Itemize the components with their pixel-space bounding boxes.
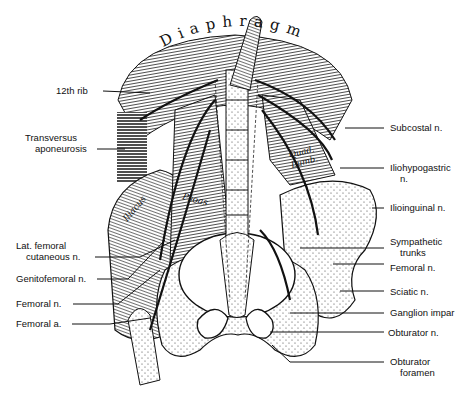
label-text: Femoral n. <box>390 262 435 273</box>
label-femoral-n-left: Femoral n. <box>16 298 61 309</box>
label-text: Ganglion impar <box>390 307 454 318</box>
label-text: Femoral a. <box>16 318 61 329</box>
label-text: Lat. femoral <box>16 240 80 251</box>
label-text: aponeurosis <box>25 143 87 154</box>
label-sympathetic-trunks: Sympathetic trunks <box>390 236 442 258</box>
label-femoral-n-right: Femoral n. <box>390 262 435 273</box>
label-lat-femoral-cutaneous: Lat. femoral cutaneous n. <box>16 240 80 262</box>
label-obturator-n: Obturator n. <box>388 327 439 338</box>
label-text: cutaneous n. <box>16 251 80 262</box>
label-genitofemoral: Genitofemoral n. <box>16 273 86 284</box>
label-ilioinguinal: Ilioinguinal n. <box>390 202 445 213</box>
label-iliohypogastric: Iliohypogastric n. <box>390 162 451 184</box>
label-text: Obturator n. <box>388 327 439 338</box>
label-text: Sciatic n. <box>390 286 429 297</box>
label-text: Sympathetic <box>390 236 442 247</box>
label-subcostal: Subcostal n. <box>390 122 442 133</box>
label-text: Genitofemoral n. <box>16 273 86 284</box>
label-ganglion-impar: Ganglion impar <box>390 307 454 318</box>
label-text: Transversus <box>25 132 87 143</box>
label-obturator-foramen: Obturator foramen <box>390 356 435 378</box>
label-transversus-aponeurosis: Transversus aponeurosis <box>25 132 87 154</box>
label-text: n. <box>390 173 451 184</box>
label-text: Subcostal n. <box>390 122 442 133</box>
label-text: foramen <box>390 367 435 378</box>
label-text: 12th rib <box>56 85 88 96</box>
label-text: Iliohypogastric <box>390 162 451 173</box>
label-text: trunks <box>390 247 442 258</box>
transversus-aponeurosis <box>117 112 147 182</box>
label-text: Ilioinguinal n. <box>390 202 445 213</box>
anatomy-diagram: Diaphragm Iliacus Psoas Quad. Lumb. 12th… <box>0 0 475 396</box>
label-12th-rib: 12th rib <box>56 85 88 96</box>
label-text: Femoral n. <box>16 298 61 309</box>
label-femoral-a: Femoral a. <box>16 318 61 329</box>
label-sciatic: Sciatic n. <box>390 286 429 297</box>
label-text: Obturator <box>390 356 435 367</box>
